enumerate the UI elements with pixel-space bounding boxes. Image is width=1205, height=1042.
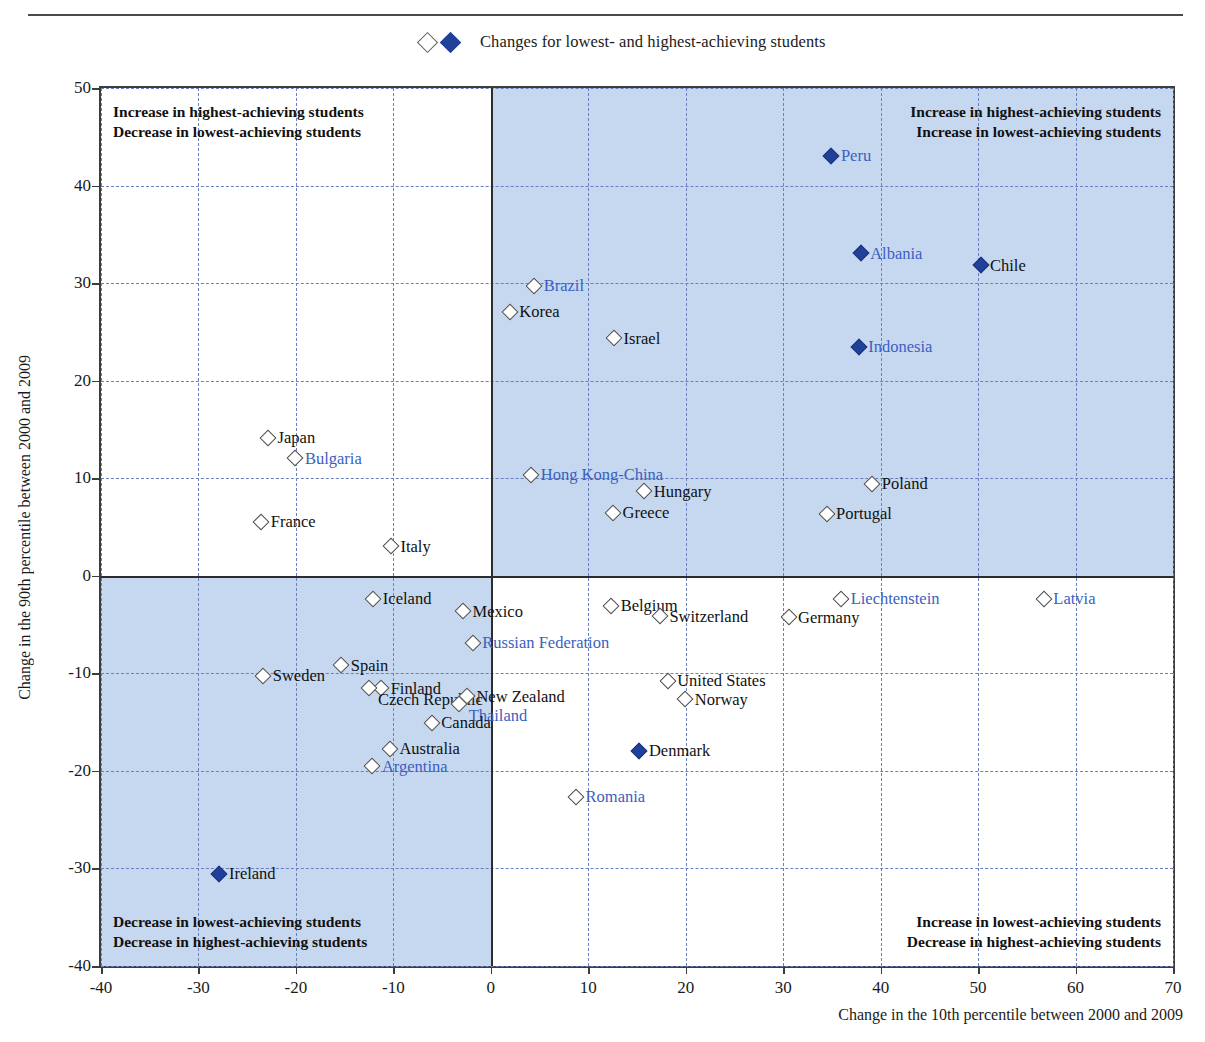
data-point-label: Japan: [278, 428, 316, 448]
x-tick-label: 70: [1143, 978, 1203, 998]
y-tick-mark: [92, 381, 99, 383]
open-diamond-icon: [677, 691, 694, 708]
gridline-vertical: [686, 88, 687, 966]
y-tick-label: -10: [47, 663, 91, 683]
y-tick-label: 40: [47, 176, 91, 196]
y-tick-mark: [92, 966, 99, 968]
x-tick-mark: [588, 967, 590, 974]
data-point-label: Iceland: [383, 589, 432, 609]
data-point-label: Sweden: [273, 666, 325, 686]
gridline-horizontal: [101, 381, 1173, 382]
data-point-label: Russian Federation: [482, 633, 609, 653]
axis-zero-vertical: [491, 88, 493, 966]
data-point-label: New Zealand: [476, 687, 564, 707]
open-diamond-icon: [659, 672, 676, 689]
quadrant-note-top-right-line-2: Increase in lowest-achieving students: [910, 122, 1161, 142]
data-point-label: Albania: [870, 244, 922, 264]
data-point-label: Mexico: [473, 602, 523, 622]
data-point-label: Israel: [624, 329, 661, 349]
gridline-horizontal: [101, 771, 1173, 772]
x-tick-mark: [686, 967, 688, 974]
open-diamond-icon: [833, 590, 850, 607]
open-diamond-icon: [287, 450, 304, 467]
header-rule: [28, 14, 1183, 16]
data-point-label: Liechtenstein: [851, 589, 940, 609]
x-tick-label: -20: [266, 978, 326, 998]
x-tick-label: -40: [71, 978, 131, 998]
x-tick-label: 0: [461, 978, 521, 998]
quadrant-note-top-left-line-2: Decrease in lowest-achieving students: [113, 122, 364, 142]
gridline-horizontal: [101, 283, 1173, 284]
x-tick-mark: [393, 967, 395, 974]
open-diamond-icon: [568, 788, 585, 805]
gridline-vertical: [978, 88, 979, 966]
open-diamond-icon: [382, 538, 399, 555]
x-tick-label: -10: [363, 978, 423, 998]
data-point-label: Brazil: [544, 276, 584, 296]
y-tick-mark: [92, 576, 99, 578]
x-tick-mark: [491, 967, 493, 974]
gridline-vertical: [393, 88, 394, 966]
y-tick-label: -30: [47, 858, 91, 878]
data-point-label: Germany: [798, 608, 859, 628]
x-axis-title: Change in the 10th percentile between 20…: [838, 1006, 1183, 1024]
x-tick-mark: [783, 967, 785, 974]
data-point-label: Bulgaria: [305, 449, 362, 469]
x-tick-label: 50: [948, 978, 1008, 998]
y-tick-mark: [92, 186, 99, 188]
data-point-label: Hungary: [654, 482, 712, 502]
data-point-label: Ireland: [229, 864, 276, 884]
gridline-vertical: [101, 88, 102, 966]
open-diamond-icon: [603, 597, 620, 614]
gridline-horizontal: [101, 966, 1173, 967]
data-point-label: Denmark: [649, 741, 710, 761]
quadrant-note-bottom-left: Decrease in lowest-achieving studentsDec…: [113, 912, 367, 952]
quadrant-note-bottom-right: Increase in lowest-achieving studentsDec…: [907, 912, 1161, 952]
data-point-label: Indonesia: [868, 337, 932, 357]
x-tick-mark: [978, 967, 980, 974]
open-diamond-icon: [260, 429, 277, 446]
data-point-label: Latvia: [1053, 589, 1095, 609]
gridline-vertical: [783, 88, 784, 966]
quadrant-note-bottom-left-line-1: Decrease in lowest-achieving students: [113, 912, 367, 932]
gridline-vertical: [881, 88, 882, 966]
data-point-label: Greece: [623, 503, 670, 523]
x-tick-label: 20: [656, 978, 716, 998]
x-tick-label: -30: [168, 978, 228, 998]
y-tick-label: -40: [47, 956, 91, 976]
data-point-label: Switzerland: [669, 607, 748, 627]
gridline-vertical: [1173, 88, 1174, 966]
chart-legend: Changes for lowest- and highest-achievin…: [420, 32, 825, 52]
filled-diamond-icon: [631, 742, 648, 759]
quadrant-note-bottom-right-line-2: Decrease in highest-achieving students: [907, 932, 1161, 952]
y-tick-label: 0: [47, 566, 91, 586]
data-point-label: Peru: [841, 146, 871, 166]
x-tick-mark: [1076, 967, 1078, 974]
data-point-label: Norway: [695, 690, 748, 710]
data-point-label: Poland: [882, 474, 928, 494]
y-tick-mark: [92, 88, 99, 90]
x-tick-label: 10: [558, 978, 618, 998]
quadrant-note-top-left: Increase in highest-achieving studentsDe…: [113, 102, 364, 142]
x-tick-mark: [101, 967, 103, 974]
data-point-label: Romania: [586, 787, 646, 807]
open-diamond-icon: [1035, 590, 1052, 607]
gridline-vertical: [198, 88, 199, 966]
quadrant-note-top-right-line-1: Increase in highest-achieving students: [910, 102, 1161, 122]
y-tick-mark: [92, 673, 99, 675]
quadrant-note-top-left-line-1: Increase in highest-achieving students: [113, 102, 364, 122]
open-diamond-icon: [253, 513, 270, 530]
gridline-horizontal: [101, 88, 1173, 89]
x-tick-label: 40: [851, 978, 911, 998]
legend-label: Changes for lowest- and highest-achievin…: [480, 32, 825, 52]
x-tick-mark: [198, 967, 200, 974]
data-point-label: Korea: [519, 302, 559, 322]
open-diamond-icon: [417, 31, 438, 52]
quadrant-note-bottom-right-line-1: Increase in lowest-achieving students: [907, 912, 1161, 932]
y-tick-label: -20: [47, 761, 91, 781]
data-point-label: United States: [677, 671, 765, 691]
x-tick-label: 30: [753, 978, 813, 998]
quadrant-note-top-right: Increase in highest-achieving studentsIn…: [910, 102, 1161, 142]
gridline-vertical: [1076, 88, 1077, 966]
quadrant-note-bottom-left-line-2: Decrease in highest-achieving students: [113, 932, 367, 952]
